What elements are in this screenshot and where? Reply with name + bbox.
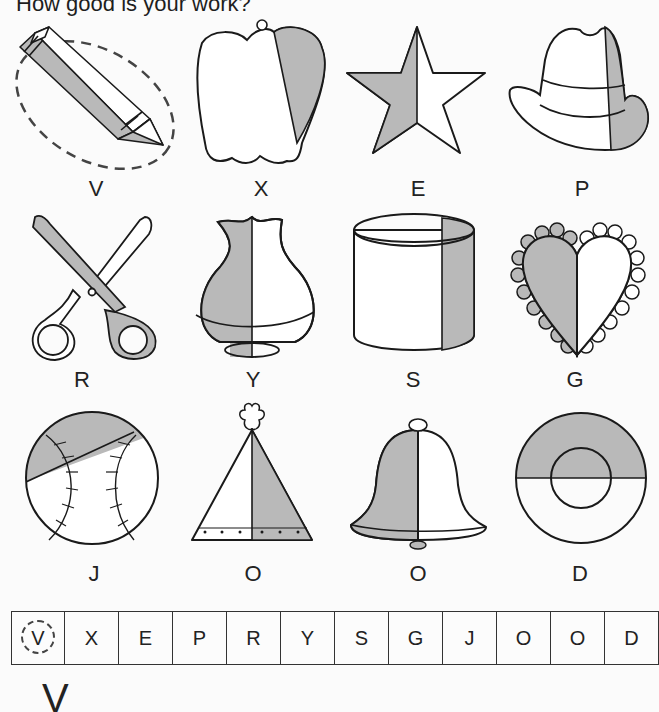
crayon-icon[interactable] xyxy=(5,25,190,175)
answer-letter: D xyxy=(624,627,638,650)
answer-cell[interactable]: O xyxy=(497,612,551,664)
ring-icon[interactable] xyxy=(514,412,648,546)
answer-cell[interactable]: X xyxy=(65,612,119,664)
answer-letter: G xyxy=(408,627,424,650)
picture-label: X xyxy=(241,177,281,201)
scissors-icon[interactable] xyxy=(25,212,165,362)
picture-label: D xyxy=(560,562,600,586)
heart-icon[interactable] xyxy=(512,220,652,360)
answer-cell[interactable]: D xyxy=(605,612,659,664)
picture-label: G xyxy=(555,368,595,392)
answer-letter: O xyxy=(516,627,532,650)
answer-letter: X xyxy=(85,627,98,650)
answer-cell[interactable]: E xyxy=(119,612,173,664)
star-icon[interactable] xyxy=(345,25,490,155)
answer-cell[interactable]: G xyxy=(389,612,443,664)
picture-label: E xyxy=(398,177,438,201)
picture-label: P xyxy=(562,177,602,201)
picture-label: S xyxy=(393,368,433,392)
answer-cell[interactable]: Y xyxy=(281,612,335,664)
picture-label: O xyxy=(398,562,438,586)
answer-cell[interactable]: P xyxy=(173,612,227,664)
answer-letter: E xyxy=(139,627,152,650)
bell-pepper-icon[interactable] xyxy=(192,18,327,168)
vase-icon[interactable] xyxy=(190,212,325,357)
dashed-circle-icon xyxy=(21,620,55,654)
picture-label: O xyxy=(233,562,273,586)
answer-letter: Y xyxy=(301,627,314,650)
answer-cell[interactable]: O xyxy=(551,612,605,664)
answer-cell[interactable]: R xyxy=(227,612,281,664)
answer-cell[interactable]: V xyxy=(12,612,65,664)
answer-cell[interactable]: S xyxy=(335,612,389,664)
bell-icon[interactable] xyxy=(346,405,491,550)
picture-label: J xyxy=(74,562,114,586)
written-answer: V xyxy=(42,678,69,712)
cylinder-icon[interactable] xyxy=(352,210,477,360)
answer-letter: O xyxy=(570,627,586,650)
answer-letter: P xyxy=(193,627,206,650)
page-title: How good is your work? xyxy=(16,0,251,17)
answer-letter: R xyxy=(246,627,260,650)
answer-letter: J xyxy=(465,627,475,650)
hat-icon[interactable] xyxy=(505,25,650,155)
answer-cell[interactable]: J xyxy=(443,612,497,664)
party-hat-icon[interactable] xyxy=(190,400,320,555)
baseball-icon[interactable] xyxy=(24,410,160,546)
answer-row: V X E P R Y S G J O O D xyxy=(11,611,659,665)
picture-label: Y xyxy=(233,368,273,392)
picture-label: R xyxy=(62,368,102,392)
picture-label: V xyxy=(76,177,116,201)
answer-letter: S xyxy=(355,627,368,650)
